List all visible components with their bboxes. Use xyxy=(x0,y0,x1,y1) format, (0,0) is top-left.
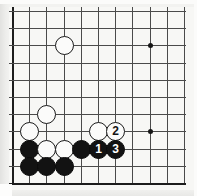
page-gutter-shadow xyxy=(0,0,9,196)
stone-white[interactable] xyxy=(37,140,56,159)
stone-white[interactable] xyxy=(89,122,108,141)
grid-line-horizontal xyxy=(9,63,186,64)
page-right-margin xyxy=(194,0,197,196)
star-point xyxy=(148,43,153,48)
page-bottom-shadow xyxy=(0,189,197,196)
grid-line-vertical xyxy=(167,7,168,185)
stone-black[interactable] xyxy=(72,140,91,159)
stone-white[interactable] xyxy=(55,36,74,55)
stone-black[interactable] xyxy=(55,157,74,176)
stone-black[interactable] xyxy=(20,157,39,176)
stone-white-move-2[interactable]: 2 xyxy=(106,122,125,141)
grid-line-vertical xyxy=(150,7,151,185)
grid-line-vertical xyxy=(132,7,133,185)
grid-line-vertical xyxy=(184,7,185,185)
stone-black[interactable] xyxy=(20,140,39,159)
page-corner-highlight xyxy=(0,184,12,196)
stone-white[interactable] xyxy=(20,122,39,141)
grid-line-horizontal xyxy=(9,183,186,185)
go-diagram-screenshot: 213 xyxy=(0,0,197,196)
stone-white[interactable] xyxy=(55,140,74,159)
grid-line-horizontal xyxy=(9,97,186,98)
stone-move-number: 3 xyxy=(107,141,124,158)
grid-line-horizontal xyxy=(9,11,186,12)
grid-line-horizontal xyxy=(9,28,186,29)
grid-line-horizontal xyxy=(9,45,186,46)
grid-line-horizontal xyxy=(9,80,186,81)
go-board[interactable]: 213 xyxy=(9,7,194,190)
stone-white[interactable] xyxy=(37,105,56,124)
stone-move-number: 1 xyxy=(90,141,107,158)
grid-line-horizontal xyxy=(9,114,186,115)
grid-line-vertical xyxy=(12,7,14,185)
star-point xyxy=(148,129,153,134)
stone-black-move-3[interactable]: 3 xyxy=(106,140,125,159)
go-board-grid: 213 xyxy=(9,7,194,190)
stone-black-move-1[interactable]: 1 xyxy=(89,140,108,159)
stone-black[interactable] xyxy=(37,157,56,176)
stone-move-number: 2 xyxy=(107,123,124,140)
page-top-margin xyxy=(0,0,197,4)
